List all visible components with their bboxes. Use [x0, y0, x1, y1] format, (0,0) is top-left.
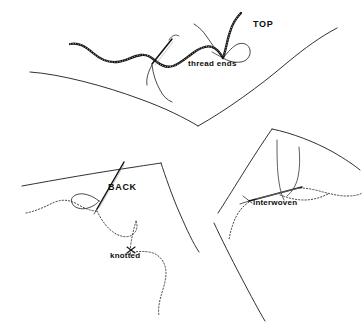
back-needle-eye-loop	[71, 194, 99, 209]
top-needle-shaft	[152, 39, 172, 64]
back-thread-left-run	[26, 200, 97, 213]
back-thread-to-knot	[97, 211, 137, 237]
label-knotted: knotted	[110, 252, 140, 260]
illustration-canvas: TOP thread ends BACK knotted interwoven	[0, 0, 364, 336]
top-fabric-left-edge	[30, 72, 198, 126]
illustration-vector	[0, 0, 364, 336]
top-fabric-right-edge	[198, 28, 337, 126]
label-back: BACK	[108, 183, 137, 192]
interwoven-fabric-top-edge	[272, 129, 360, 170]
interwoven-panel-fabric	[214, 129, 360, 321]
interwoven-fabric-fold-a	[277, 140, 284, 200]
top-thread-end-curl-left	[194, 24, 223, 58]
back-needle-point	[94, 209, 97, 214]
top-needle-thread-tail-b	[147, 65, 152, 85]
interwoven-thread-right-run	[300, 188, 362, 196]
back-fabric-top-edge	[22, 163, 161, 186]
back-thread-after-knot	[133, 251, 166, 316]
interwoven-fabric-lower-edge	[214, 223, 265, 321]
label-top: TOP	[253, 20, 273, 29]
interwoven-thread-tail	[229, 202, 249, 240]
top-thread-upper-branch	[223, 13, 241, 58]
interwoven-panel-needle	[229, 187, 362, 240]
top-needle-eye	[169, 35, 179, 40]
label-leader-lines	[212, 52, 252, 203]
back-panel-fabric	[22, 163, 199, 252]
top-panel-needle	[147, 35, 179, 102]
label-thread-ends: thread ends	[188, 60, 237, 68]
interwoven-leader	[243, 196, 252, 203]
back-panel-dotted-thread	[26, 200, 166, 316]
top-needle-thread-tail-a	[152, 65, 172, 102]
back-fabric-right-edge	[161, 163, 199, 252]
top-needle-highlight	[155, 42, 173, 65]
label-interwoven: interwoven	[253, 199, 297, 207]
